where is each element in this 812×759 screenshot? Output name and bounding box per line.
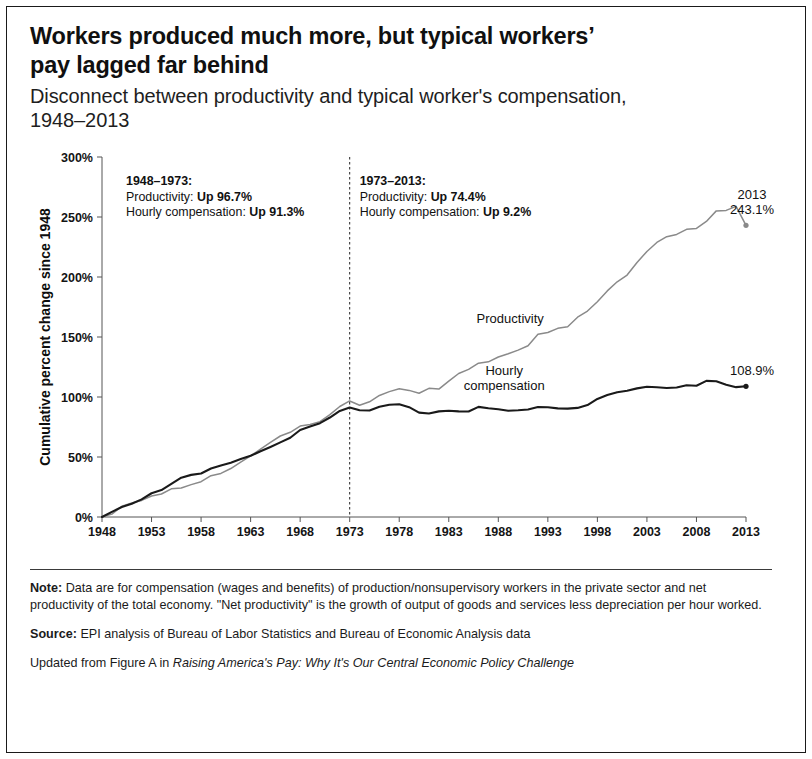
source-paragraph: Source: EPI analysis of Bureau of Labor … [30, 626, 772, 644]
annotation-heading: 1948–1973: [126, 174, 192, 188]
x-tick-label: 1963 [237, 525, 265, 539]
x-tick-label: 1953 [138, 525, 166, 539]
source-label: Source: [30, 627, 77, 641]
series-line-hourly-compensation [102, 380, 746, 516]
x-tick-label: 1948 [88, 525, 116, 539]
annotation-line-label: Productivity: [360, 190, 431, 204]
end-label-value-productivity: 243.1% [730, 202, 775, 217]
updated-paragraph: Updated from Figure A in Raising America… [30, 655, 772, 673]
updated-prefix: Updated from Figure A in [30, 656, 173, 670]
x-tick-label: 1998 [583, 525, 611, 539]
annotation-line-value: Up 96.7% [197, 190, 252, 204]
footnotes: Note: Data are for compensation (wages a… [30, 569, 772, 674]
annotation-line: Productivity: Up 96.7% [126, 190, 252, 204]
y-tick-label: 250% [61, 210, 93, 224]
y-axis-title: Cumulative percent change since 1948 [37, 208, 53, 466]
annotation-line: Productivity: Up 74.4% [360, 190, 486, 204]
productivity-pay-gap-line-chart: 0%50%100%150%200%250%300%194819531958196… [30, 143, 786, 555]
x-tick-label: 1988 [484, 525, 512, 539]
series-label-hourly-compensation: compensation [464, 378, 545, 393]
x-tick-label: 1958 [187, 525, 215, 539]
annotation-line: Hourly compensation: Up 91.3% [126, 205, 304, 219]
page-title: Workers produced much more, but typical … [30, 22, 630, 80]
source-text: EPI analysis of Bureau of Labor Statisti… [77, 627, 531, 641]
end-label-year: 2013 [738, 187, 767, 202]
page-subtitle: Disconnect between productivity and typi… [30, 84, 630, 133]
series-label-hourly-compensation: Hourly [485, 363, 523, 378]
x-tick-label: 1968 [286, 525, 314, 539]
x-tick-label: 2003 [633, 525, 661, 539]
chart-container: 0%50%100%150%200%250%300%194819531958196… [30, 143, 786, 555]
annotation-line-label: Hourly compensation: [360, 205, 483, 219]
note-text: Data are for compensation (wages and ben… [30, 581, 762, 613]
footnote-divider [30, 569, 772, 570]
annotation-period-1948-1973: 1948–1973:Productivity: Up 96.7%Hourly c… [126, 174, 304, 219]
annotation-line: Hourly compensation: Up 9.2% [360, 205, 531, 219]
y-tick-label: 100% [61, 390, 93, 404]
annotation-line-label: Hourly compensation: [126, 205, 249, 219]
annotation-line-value: Up 91.3% [249, 205, 304, 219]
y-tick-label: 150% [61, 330, 93, 344]
annotation-line-value: Up 9.2% [483, 205, 531, 219]
series-endpoint-productivity [743, 222, 748, 227]
annotation-line-value: Up 74.4% [431, 190, 486, 204]
y-tick-label: 200% [61, 270, 93, 284]
x-tick-label: 1973 [336, 525, 364, 539]
publication-title: Raising America's Pay: Why It's Our Cent… [173, 656, 574, 670]
note-paragraph: Note: Data are for compensation (wages a… [30, 580, 772, 616]
x-tick-label: 1983 [435, 525, 463, 539]
note-label: Note: [30, 581, 62, 595]
x-tick-label: 1993 [534, 525, 562, 539]
y-tick-label: 300% [61, 150, 93, 164]
x-tick-label: 2013 [732, 525, 760, 539]
figure-root: Workers produced much more, but typical … [0, 0, 812, 759]
x-tick-label: 1978 [385, 525, 413, 539]
series-line-productivity [102, 206, 746, 517]
y-tick-label: 50% [68, 450, 93, 464]
end-label-value-hourly-compensation: 108.9% [730, 363, 775, 378]
annotation-heading: 1973–2013: [360, 174, 426, 188]
annotation-period-1973-2013: 1973–2013:Productivity: Up 74.4%Hourly c… [360, 174, 531, 219]
y-tick-label: 0% [75, 510, 93, 524]
series-label-productivity: Productivity [477, 310, 545, 325]
series-endpoint-hourly-compensation [743, 383, 748, 388]
annotation-line-label: Productivity: [126, 190, 197, 204]
x-tick-label: 2008 [683, 525, 711, 539]
